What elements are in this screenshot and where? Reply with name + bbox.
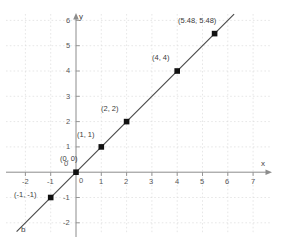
line-label-b: b bbox=[21, 226, 25, 234]
point-label--1--1: (-1, -1) bbox=[14, 191, 37, 199]
x-tick-label-6: 6 bbox=[225, 178, 229, 186]
y-tick-label-2: 2 bbox=[66, 118, 70, 126]
x-tick-label-5: 5 bbox=[200, 178, 204, 186]
x-tick-label--1: -1 bbox=[47, 178, 54, 186]
data-point-marker bbox=[73, 169, 79, 175]
vertical-gridlines bbox=[25, 14, 253, 234]
y-tick-label-3: 3 bbox=[66, 93, 70, 101]
data-point-marker bbox=[212, 31, 218, 37]
point-label-4-4: (4, 4) bbox=[152, 54, 170, 62]
x-tick-label-2: 2 bbox=[124, 178, 128, 186]
x-tick-marks bbox=[25, 172, 253, 176]
data-point-marker bbox=[124, 119, 130, 125]
origin-label: 0 bbox=[79, 177, 83, 185]
y-tick-label-6: 6 bbox=[66, 17, 70, 25]
point-label-5.48-5.48: (5.48, 5.48) bbox=[178, 17, 216, 25]
point-label-2-2: (2, 2) bbox=[101, 105, 119, 113]
data-point-marker bbox=[48, 195, 54, 201]
x-tick-label-3: 3 bbox=[149, 178, 153, 186]
x-tick-label--2: -2 bbox=[22, 178, 29, 186]
data-point-marker bbox=[99, 144, 105, 150]
coordinate-plane-chart: -2 -1 1 2 3 4 5 6 7 0 6 5 4 3 2 1 0 -1 -… bbox=[0, 0, 283, 241]
y-tick-label--2: -2 bbox=[63, 219, 70, 227]
y-tick-label-5: 5 bbox=[66, 42, 70, 50]
y-tick-label-1: 1 bbox=[66, 143, 70, 151]
x-tick-label-4: 4 bbox=[175, 178, 179, 186]
plot-canvas bbox=[0, 0, 283, 241]
x-axis-label: x bbox=[261, 160, 265, 168]
y-axis-label: y bbox=[79, 13, 83, 21]
x-tick-label-7: 7 bbox=[251, 178, 255, 186]
point-label-1-1: (1, 1) bbox=[77, 131, 95, 139]
y-tick-marks bbox=[76, 20, 80, 222]
point-label-0-0: (0, 0) bbox=[60, 155, 78, 163]
y-tick-label--1: -1 bbox=[63, 194, 70, 202]
horizontal-gridlines bbox=[6, 20, 272, 222]
x-tick-label-1: 1 bbox=[99, 178, 103, 186]
data-point-marker bbox=[174, 68, 180, 74]
x-axis bbox=[6, 169, 272, 175]
y-axis bbox=[73, 13, 79, 237]
y-tick-label-4: 4 bbox=[66, 67, 70, 75]
